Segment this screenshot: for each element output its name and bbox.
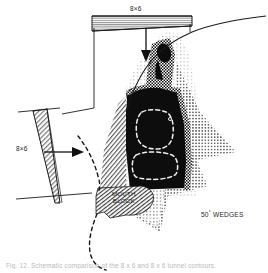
degree-sign-icon: ° bbox=[209, 209, 211, 215]
wedges-angle-label: 50° WEDGES bbox=[201, 209, 244, 218]
left-wedge-shape bbox=[33, 109, 60, 203]
figure-canvas bbox=[0, 0, 268, 273]
figure-root: 8×6 8×6 MOUTH BLOCK 50° WEDGES Fig. 12. … bbox=[0, 0, 268, 273]
left-wedge-dimension-label: 8×6 bbox=[16, 145, 28, 152]
top-wedge-dimension-label: 8×6 bbox=[130, 5, 142, 12]
wedges-text: WEDGES bbox=[213, 211, 244, 218]
top-wedge-shape bbox=[92, 16, 192, 31]
figure-caption: Fig. 12. Schematic comparison of the 8 x… bbox=[6, 262, 262, 269]
mouth-block-label-line1: MOUTH bbox=[112, 190, 136, 197]
mouth-block-label: MOUTH BLOCK bbox=[112, 190, 136, 205]
left-hatch-flank bbox=[100, 96, 126, 190]
wedges-angle-value: 50 bbox=[201, 211, 209, 218]
mouth-block-label-line2: BLOCK bbox=[113, 197, 135, 204]
